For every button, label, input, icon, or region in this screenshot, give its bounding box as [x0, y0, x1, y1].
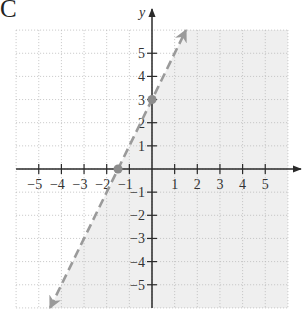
svg-text:−5: −5: [130, 278, 145, 293]
svg-text:−3: −3: [130, 231, 145, 246]
inequality-graph: −5−4−3−2−112345−5−4−3−2−112345 y: [0, 0, 303, 311]
svg-text:−5: −5: [27, 177, 42, 192]
svg-text:4: 4: [138, 69, 145, 84]
svg-text:2: 2: [194, 177, 201, 192]
svg-text:1: 1: [171, 177, 178, 192]
svg-text:−1: −1: [130, 185, 145, 200]
svg-text:−2: −2: [130, 208, 145, 223]
svg-text:1: 1: [138, 139, 145, 154]
svg-text:−4: −4: [130, 255, 145, 270]
svg-text:−3: −3: [73, 177, 88, 192]
point-x-intercept: [114, 165, 123, 174]
y-axis-label: y: [137, 5, 146, 20]
point-y-intercept: [148, 95, 157, 104]
svg-text:4: 4: [239, 177, 246, 192]
svg-text:3: 3: [216, 177, 223, 192]
svg-text:3: 3: [138, 93, 145, 108]
svg-text:5: 5: [138, 46, 145, 61]
svg-text:5: 5: [262, 177, 269, 192]
svg-text:−4: −4: [50, 177, 65, 192]
